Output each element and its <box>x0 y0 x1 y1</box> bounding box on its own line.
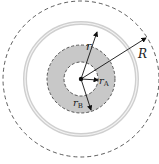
label-R: R <box>137 47 147 61</box>
concentric-circles-diagram: r R rA rB <box>0 0 159 164</box>
label-r: r <box>86 40 92 53</box>
